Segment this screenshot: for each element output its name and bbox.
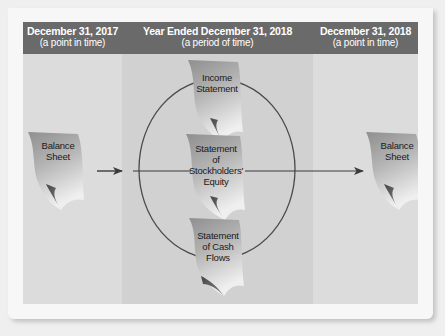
label-line: of Cash [191,241,245,252]
label-line: Flows [191,252,245,263]
label-line: Balance [35,140,81,151]
label-line: of [183,154,249,165]
label-line: Statement [183,143,249,154]
balance-sheet-end-label: Balance Sheet [374,140,418,162]
label-line: Statement [191,83,243,94]
label-line: Statement [191,230,245,241]
label-line: Sheet [374,151,418,162]
label-line: Sheet [35,151,81,162]
stockholders-equity-label: Statement of Stockholders' Equity [183,143,249,187]
cash-flows-label: Statement of Cash Flows [191,230,245,263]
label-line: Balance [374,140,418,151]
balance-sheet-start-label: Balance Sheet [35,140,81,162]
label-line: Income [191,72,243,83]
label-line: Equity [183,176,249,187]
income-statement-label: Income Statement [191,72,243,94]
label-line: Stockholders' [183,165,249,176]
diagram-panel: December 31, 2017 (a point in time) Year… [23,22,418,304]
